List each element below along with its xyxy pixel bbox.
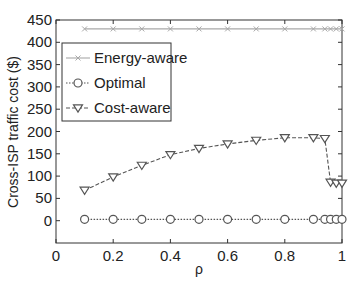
x-tick-label: 0.8: [274, 247, 295, 264]
y-tick-label: 0: [44, 212, 52, 229]
data-point-cost-aware: [320, 135, 329, 142]
y-tick-label: 250: [27, 100, 52, 117]
series-optimal: [81, 215, 346, 223]
data-point-optimal: [309, 215, 317, 223]
data-point-cost-aware: [223, 141, 232, 148]
data-point-optimal: [81, 215, 89, 223]
y-tick-label: 150: [27, 145, 52, 162]
series-cost-aware: [80, 135, 346, 195]
x-tick-label: 1: [338, 247, 346, 264]
y-axis-label: Cross-ISP traffic cost ($): [5, 56, 21, 208]
x-tick-label: 0: [52, 247, 60, 264]
data-point-optimal: [252, 215, 260, 223]
series-line-cost-aware: [85, 138, 342, 191]
data-point-optimal: [338, 215, 346, 223]
data-point-optimal: [166, 215, 174, 223]
data-point-optimal: [224, 215, 232, 223]
data-point-optimal: [109, 215, 117, 223]
y-tick-label: 400: [27, 33, 52, 50]
data-point-cost-aware: [195, 145, 204, 152]
legend-marker: [74, 79, 82, 87]
x-tick-label: 0.6: [217, 247, 238, 264]
legend-label: Energy-aware: [94, 49, 187, 66]
data-point-cost-aware: [109, 174, 118, 181]
y-tick-label: 200: [27, 123, 52, 140]
data-point-cost-aware: [137, 162, 146, 169]
data-point-optimal: [281, 215, 289, 223]
data-point-optimal: [138, 215, 146, 223]
series-energy-aware: [82, 26, 344, 31]
chart: 00.20.40.60.81 0501001502002503003504004…: [0, 0, 361, 282]
y-tick-label: 50: [35, 189, 52, 206]
y-tick-label: 450: [27, 11, 52, 28]
y-tick-label: 350: [27, 56, 52, 73]
x-tick-label: 0.4: [160, 247, 181, 264]
legend-label: Optimal: [94, 74, 146, 91]
y-tick-label: 100: [27, 167, 52, 184]
legend-label: Cost-aware: [94, 99, 171, 116]
x-tick-label: 0.2: [103, 247, 124, 264]
data-point-cost-aware: [80, 187, 89, 194]
data-point-cost-aware: [166, 152, 175, 159]
x-axis-label: ρ: [195, 261, 203, 277]
y-tick-label: 300: [27, 78, 52, 95]
legend: Energy-awareOptimalCost-aware: [62, 43, 187, 121]
data-point-optimal: [195, 215, 203, 223]
